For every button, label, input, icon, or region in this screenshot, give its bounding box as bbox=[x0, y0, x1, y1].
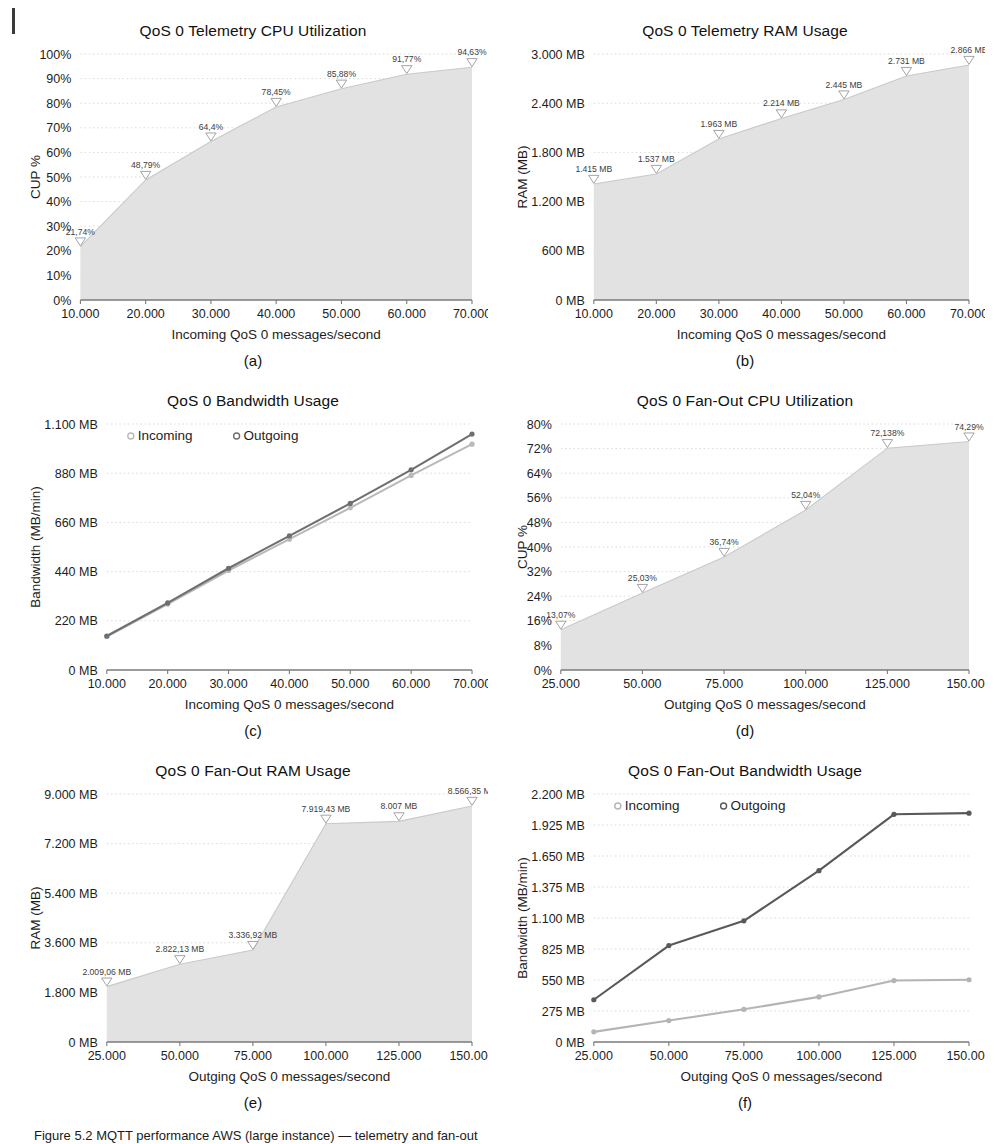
subfigure-caption-c: (c) bbox=[18, 722, 488, 739]
y-tick-label: 7.200 MB bbox=[44, 837, 98, 851]
y-tick-label: 825 MB bbox=[542, 943, 585, 957]
y-axis-title: CUP % bbox=[28, 155, 43, 199]
data-point bbox=[348, 501, 353, 506]
data-point bbox=[104, 633, 109, 638]
x-axis-title: Outging QoS 0 messages/second bbox=[664, 697, 866, 712]
y-tick-label: 9.000 MB bbox=[44, 788, 98, 802]
data-point-label: 74,29% bbox=[954, 422, 984, 432]
y-tick-label: 80% bbox=[46, 97, 71, 111]
legend-item-incoming[interactable]: Incoming bbox=[615, 798, 680, 813]
data-point-label: 21,74% bbox=[66, 227, 96, 237]
x-tick-label: 50.000 bbox=[650, 1049, 688, 1063]
legend-label: Incoming bbox=[625, 798, 680, 813]
y-tick-label: 275 MB bbox=[542, 1005, 585, 1019]
x-tick-label: 20.000 bbox=[127, 307, 165, 321]
y-tick-label: 60% bbox=[46, 146, 71, 160]
x-tick-label: 125.000 bbox=[865, 677, 910, 691]
chart-title-e: QoS 0 Fan-Out RAM Usage bbox=[18, 762, 488, 780]
legend-item-outgoing[interactable]: Outgoing bbox=[234, 428, 299, 443]
y-tick-label: 0% bbox=[534, 664, 552, 678]
data-point bbox=[409, 473, 414, 478]
legend-label: Outgoing bbox=[244, 428, 299, 443]
panel-b: QoS 0 Telemetry RAM Usage0 MB600 MB1.200… bbox=[505, 22, 985, 382]
y-tick-label: 56% bbox=[527, 491, 552, 505]
data-point: 94,63% bbox=[457, 47, 487, 66]
x-tick-label: 50.000 bbox=[322, 307, 360, 321]
data-point bbox=[966, 977, 971, 982]
y-tick-label: 2.200 MB bbox=[531, 788, 585, 802]
line-series-incoming bbox=[594, 980, 969, 1032]
data-point: 85,88% bbox=[327, 69, 357, 88]
data-point-label: 64,4% bbox=[199, 122, 224, 132]
chart-title-c: QoS 0 Bandwidth Usage bbox=[18, 392, 488, 410]
x-tick-label: 50.000 bbox=[623, 677, 661, 691]
area-fill bbox=[561, 442, 969, 670]
x-tick-label: 75.000 bbox=[725, 1049, 763, 1063]
data-point-label: 85,88% bbox=[327, 69, 357, 79]
y-tick-label: 1.200 MB bbox=[531, 195, 585, 209]
data-point-label: 2.822,13 MB bbox=[155, 944, 204, 954]
y-axis-title: RAM (MB) bbox=[28, 887, 43, 950]
y-tick-label: 600 MB bbox=[542, 244, 585, 258]
y-axis-title: RAM (MB) bbox=[515, 146, 530, 209]
x-tick-label: 70.000 bbox=[950, 307, 985, 321]
y-tick-label: 3.000 MB bbox=[531, 48, 585, 62]
panel-f: QoS 0 Fan-Out Bandwidth Usage0 MB275 MB5… bbox=[505, 762, 985, 1124]
x-tick-label: 150.000 bbox=[449, 1049, 488, 1063]
data-point bbox=[966, 811, 971, 816]
data-point-label: 3.336,92 MB bbox=[229, 930, 278, 940]
x-tick-label: 40.000 bbox=[257, 307, 295, 321]
y-tick-label: 100% bbox=[39, 48, 71, 62]
y-tick-label: 1.925 MB bbox=[531, 819, 585, 833]
y-tick-label: 0% bbox=[53, 294, 71, 308]
x-tick-label: 75.000 bbox=[705, 677, 743, 691]
x-tick-label: 100.000 bbox=[796, 1049, 841, 1063]
data-point-label: 78,45% bbox=[262, 87, 292, 97]
data-point bbox=[226, 566, 231, 571]
y-tick-label: 80% bbox=[527, 418, 552, 432]
data-point bbox=[891, 978, 896, 983]
data-point-label: 25,03% bbox=[628, 573, 658, 583]
data-point bbox=[666, 943, 671, 948]
data-point bbox=[741, 918, 746, 923]
data-point-label: 1.415 MB bbox=[575, 164, 612, 174]
x-tick-label: 50.000 bbox=[825, 307, 863, 321]
data-point bbox=[469, 431, 474, 436]
y-tick-label: 550 MB bbox=[542, 974, 585, 988]
y-tick-label: 8% bbox=[534, 639, 552, 653]
data-point: 8.566,35 MB bbox=[448, 786, 488, 805]
y-axis-title: Bandwidth (MB/min) bbox=[28, 486, 43, 608]
chart-title-b: QoS 0 Telemetry RAM Usage bbox=[505, 22, 985, 40]
y-tick-label: 40% bbox=[46, 195, 71, 209]
panel-d: QoS 0 Fan-Out CPU Utilization0%8%16%24%3… bbox=[505, 392, 985, 752]
x-tick-label: 125.000 bbox=[871, 1049, 916, 1063]
legend-item-outgoing[interactable]: Outgoing bbox=[721, 798, 786, 813]
y-tick-label: 10% bbox=[46, 269, 71, 283]
data-point-label: 2.866 MB bbox=[951, 45, 985, 55]
y-tick-label: 32% bbox=[527, 565, 552, 579]
data-point-label: 2.731 MB bbox=[888, 56, 925, 66]
data-point-label: 2.009,06 MB bbox=[82, 967, 131, 977]
y-tick-label: 0 MB bbox=[69, 1036, 98, 1050]
x-axis-title: Incoming QoS 0 messages/second bbox=[677, 327, 886, 342]
legend-item-incoming[interactable]: Incoming bbox=[128, 428, 193, 443]
y-tick-label: 48% bbox=[527, 516, 552, 530]
line-series-outgoing bbox=[594, 813, 969, 1000]
data-point-label: 2.214 MB bbox=[763, 98, 800, 108]
x-tick-label: 30.000 bbox=[209, 677, 247, 691]
data-point: 8.007 MB bbox=[381, 801, 418, 820]
y-axis-title: CUP % bbox=[515, 525, 530, 569]
y-tick-label: 0 MB bbox=[69, 664, 98, 678]
x-tick-label: 70.000 bbox=[453, 307, 488, 321]
x-tick-label: 10.000 bbox=[61, 307, 99, 321]
data-point: 74,29% bbox=[954, 422, 984, 441]
y-tick-label: 50% bbox=[46, 171, 71, 185]
y-tick-label: 24% bbox=[527, 590, 552, 604]
data-point bbox=[591, 1029, 596, 1034]
chart-c: 0 MB220 MB440 MB660 MB880 MB1.100 MBBand… bbox=[18, 410, 488, 720]
y-tick-label: 0 MB bbox=[556, 294, 585, 308]
chart-b: 0 MB600 MB1.200 MB1.800 MB2.400 MB3.000 … bbox=[505, 40, 985, 350]
chart-a: 0%10%20%30%40%50%60%70%80%90%100%CUP %21… bbox=[18, 40, 488, 350]
data-point: 7.919,43 MB bbox=[302, 804, 351, 823]
data-point-label: 94,63% bbox=[457, 47, 487, 57]
